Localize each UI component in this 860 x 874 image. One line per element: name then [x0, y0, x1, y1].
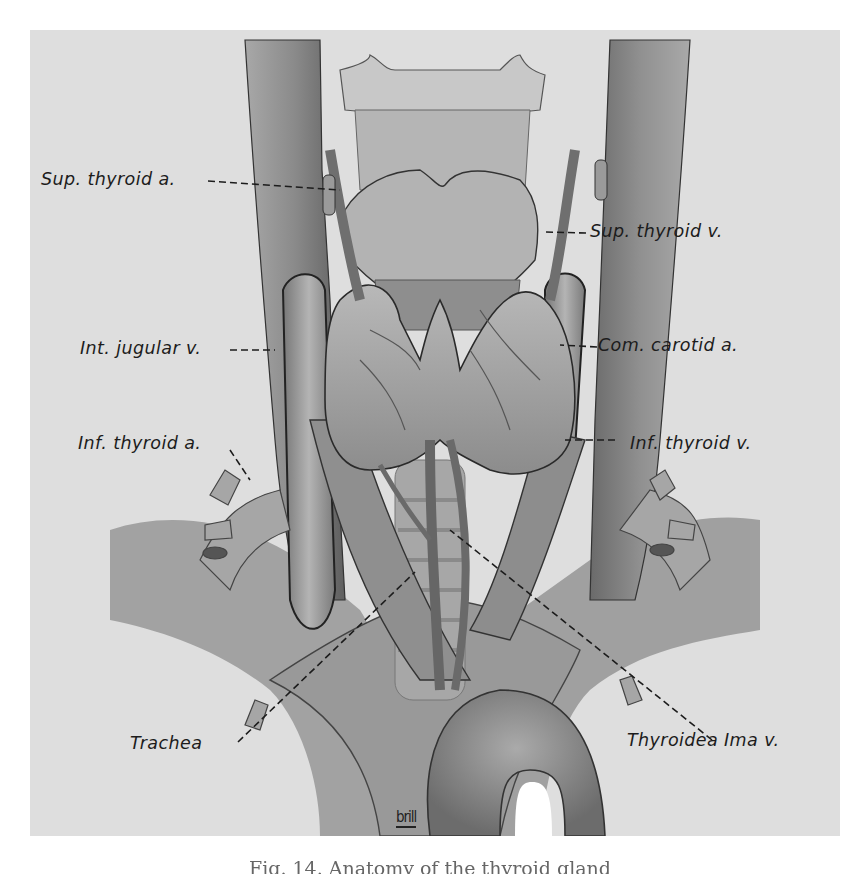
- label-inf-thyroid-artery: Inf. thyroid a.: [78, 435, 201, 453]
- hyoid-bone: [340, 55, 545, 114]
- label-com-carotid-artery: Com. carotid a.: [598, 337, 738, 355]
- label-sup-thyroid-artery: Sup. thyroid a.: [41, 171, 175, 189]
- label-thyroidea-ima-vein: Thyroidea Ima v.: [627, 732, 779, 750]
- label-sup-thyroid-vein: Sup. thyroid v.: [590, 223, 723, 241]
- label-inf-thyroid-vein: Inf. thyroid v.: [630, 435, 751, 453]
- label-trachea: Trachea: [130, 735, 202, 753]
- artist-signature: brill: [396, 810, 416, 828]
- anatomical-plate: Sup. thyroid a. Sup. thyroid v. Int. jug…: [30, 30, 840, 836]
- label-int-jugular-vein: Int. jugular v.: [80, 340, 201, 358]
- figure-caption: Fig. 14. Anatomy of the thyroid gland: [0, 851, 860, 874]
